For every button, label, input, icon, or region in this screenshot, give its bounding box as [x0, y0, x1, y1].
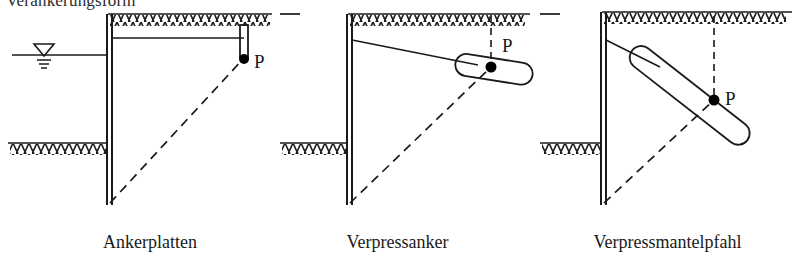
failure-plane-dashed: [110, 58, 244, 203]
failure-plane-dashed: [604, 99, 715, 203]
panel-label-ankerplatten: Ankerplatten: [0, 232, 300, 253]
figure-top-caption: Verankerungsform: [6, 0, 136, 11]
panel-label-verpressanker: Verpressanker: [265, 232, 530, 253]
panel-label-verpressmantelpfahl: Verpressmantelpfahl: [540, 232, 795, 253]
water-table-icon: [34, 44, 54, 68]
panel-ankerplatten: P: [8, 14, 272, 205]
ground-hatch-band: [350, 15, 525, 26]
anchor-plate: [240, 25, 248, 58]
anchor-point-label: P: [254, 51, 265, 72]
anchor-point-label: P: [725, 88, 736, 109]
anchor-point-marker: [709, 95, 720, 106]
anchorage-types-figure: Verankerungsform: [0, 0, 795, 267]
excavation-hatch-band: [10, 144, 107, 155]
excavation-hatch-band: [282, 144, 347, 155]
anchor-point-marker: [239, 54, 249, 64]
ground-hatch-band: [604, 13, 786, 24]
diagram-canvas: P P: [0, 0, 795, 267]
anchor-tendon: [352, 40, 478, 65]
anchor-point-marker: [486, 62, 497, 73]
excavation-hatch-band: [542, 144, 601, 155]
panel-verpressmantelpfahl: P: [540, 12, 792, 205]
anchor-point-label: P: [502, 35, 513, 56]
anchor-tendon: [606, 40, 660, 67]
panel-verpressanker: P: [280, 14, 534, 205]
failure-plane-dashed: [350, 66, 492, 203]
